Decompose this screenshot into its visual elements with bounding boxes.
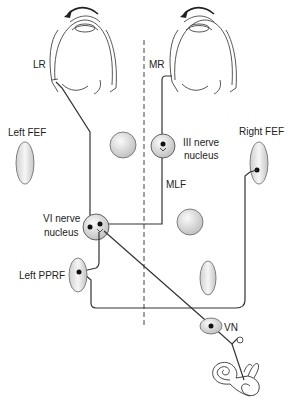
right-fef-to-left-pprf-line — [84, 170, 257, 308]
label-iii-nucleus: nucleus — [184, 150, 218, 161]
label-iii-nerve: III nerve — [183, 137, 220, 148]
label-left-fef: Left FEF — [8, 127, 46, 138]
nucleus-ellipse-lower-right — [200, 261, 216, 295]
label-vi-nerve: VI nerve — [43, 213, 81, 224]
right-eye — [170, 16, 236, 94]
label-lr: LR — [33, 59, 46, 70]
left-arrowhead-icon — [64, 10, 72, 18]
label-mlf: MLF — [166, 179, 186, 190]
label-right-fef: Right FEF — [239, 126, 284, 137]
left-fef — [16, 142, 34, 184]
left-rotation-arrow — [68, 8, 98, 14]
label-vi-nucleus: nucleus — [44, 227, 78, 238]
vi-nerve-nucleus — [83, 214, 109, 240]
right-fef — [250, 142, 268, 184]
nucleus-circle-mid-right — [177, 209, 203, 235]
label-mr: MR — [149, 59, 165, 70]
right-rotation-arrow — [184, 8, 214, 14]
label-vn: VN — [224, 322, 238, 333]
right-arrowhead-icon — [180, 10, 188, 18]
inner-ear-labyrinth — [213, 362, 260, 396]
mlf-line — [100, 147, 162, 224]
left-pprf — [69, 258, 87, 292]
vi-nerve-to-lr-line — [56, 82, 90, 222]
nucleus-circle-upper-left — [110, 132, 136, 158]
label-left-pprf: Left PPRF — [19, 270, 65, 281]
left-eye — [50, 16, 116, 94]
eye-movement-pathway-diagram: LR MR Left FEF Right FEF III nerve nucle… — [0, 0, 291, 404]
